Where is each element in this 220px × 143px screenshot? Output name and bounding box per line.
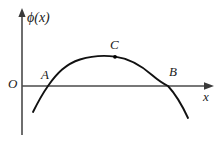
math-figure-canvas: ϕ(x) x O A B C — [0, 0, 220, 143]
point-b-label: B — [169, 65, 177, 78]
origin-label: O — [8, 77, 17, 90]
x-axis-label: x — [203, 90, 209, 103]
point-c-label: C — [110, 38, 119, 51]
phi-curve-parabola — [33, 56, 188, 118]
point-a-label: A — [41, 68, 49, 81]
vertex-point-c-dot — [113, 55, 117, 59]
y-axis-label: ϕ(x) — [27, 11, 50, 25]
y-axis-arrowhead — [18, 8, 25, 17]
